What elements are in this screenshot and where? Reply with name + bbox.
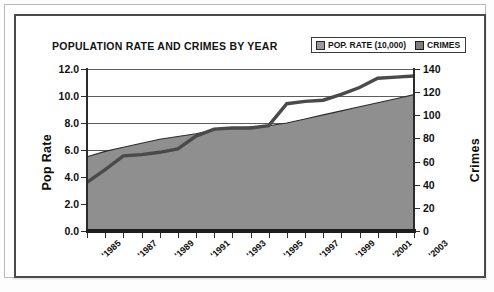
x-axis-tick <box>214 233 215 238</box>
y-axis-left-tick-label: 8.0 <box>47 117 79 129</box>
y-axis-right-tick <box>415 162 420 163</box>
y-axis-left-tick <box>81 177 86 178</box>
y-axis-left-tick-label: 10.0 <box>47 90 79 102</box>
y-axis-right-title: Crimes <box>468 138 482 182</box>
x-axis-tick-label: '1997 <box>318 238 341 260</box>
y-axis-left-tick-label: 0.0 <box>47 225 79 237</box>
x-axis-tick-label: '2003 <box>427 238 450 260</box>
area-series-pop-rate <box>87 95 414 231</box>
series-marker-icon <box>316 41 325 50</box>
x-axis-tick <box>287 233 288 238</box>
chart-legend: POP. RATE (10,000) CRIMES <box>311 37 466 53</box>
x-axis-tick <box>414 233 415 238</box>
y-axis-right-tick-label: 60 <box>423 156 435 168</box>
x-axis-tick <box>269 233 270 238</box>
y-axis-right-tick-label: 100 <box>423 109 441 121</box>
y-axis-right-tick <box>415 69 420 70</box>
y-axis-left-tick <box>81 123 86 124</box>
y-axis-right-tick-label: 40 <box>423 179 435 191</box>
x-axis-tick <box>196 233 197 238</box>
series-layer <box>87 69 414 231</box>
y-axis-right-tick-label: 140 <box>423 63 441 75</box>
y-axis-left-tick <box>81 69 86 70</box>
x-axis-tick-label: '1991 <box>209 238 232 260</box>
x-axis-tick <box>305 233 306 238</box>
x-axis-tick-label: '1993 <box>245 238 268 260</box>
y-axis-right-tick <box>415 92 420 93</box>
legend-label-pop-rate: POP. RATE (10,000) <box>328 40 406 50</box>
y-axis-left-line <box>86 68 88 232</box>
y-axis-right-tick-label: 0 <box>423 225 429 237</box>
x-axis-tick <box>178 233 179 238</box>
x-axis-tick <box>142 233 143 238</box>
x-axis-tick <box>341 233 342 238</box>
y-axis-right-tick <box>415 185 420 186</box>
y-axis-right-tick-label: 120 <box>423 86 441 98</box>
y-axis-right-tick <box>415 231 420 232</box>
x-axis-tick <box>160 233 161 238</box>
y-axis-left-tick <box>81 231 86 232</box>
y-axis-right-tick-label: 80 <box>423 132 435 144</box>
y-axis-left-tick-label: 2.0 <box>47 198 79 210</box>
x-axis-tick <box>232 233 233 238</box>
x-axis-tick-label: '1999 <box>354 238 377 260</box>
y-axis-right-tick-label: 20 <box>423 202 435 214</box>
chart-title: POPULATION RATE AND CRIMES BY YEAR <box>52 40 278 52</box>
x-axis-tick-label: '2001 <box>390 238 413 260</box>
chart-outer-frame: POPULATION RATE AND CRIMES BY YEAR POP. … <box>4 4 486 278</box>
y-axis-right-tick <box>415 115 420 116</box>
legend-item-pop-rate[interactable]: POP. RATE (10,000) <box>316 40 406 50</box>
legend-label-crimes: CRIMES <box>427 40 460 50</box>
chart-screenshot: POPULATION RATE AND CRIMES BY YEAR POP. … <box>0 0 494 292</box>
x-axis-tick <box>378 233 379 238</box>
x-axis-tick-label: '1985 <box>100 238 123 260</box>
y-axis-left-tick <box>81 204 86 205</box>
x-axis-tick-label: '1995 <box>281 238 304 260</box>
x-axis-tick <box>123 233 124 238</box>
y-axis-right-tick <box>415 208 420 209</box>
y-axis-left-tick-label: 6.0 <box>47 144 79 156</box>
legend-item-crimes[interactable]: CRIMES <box>415 40 460 50</box>
x-axis-tick <box>87 233 88 238</box>
x-axis-tick <box>360 233 361 238</box>
y-axis-left-tick-label: 12.0 <box>47 63 79 75</box>
x-axis-tick <box>251 233 252 238</box>
x-axis-tick <box>105 233 106 238</box>
y-axis-left-tick <box>81 150 86 151</box>
y-axis-left-tick <box>81 96 86 97</box>
x-axis-tick-label: '1989 <box>172 238 195 260</box>
series-marker-icon <box>415 41 424 50</box>
y-axis-right-tick <box>415 138 420 139</box>
x-axis-tick <box>323 233 324 238</box>
x-axis-tick-label: '1987 <box>136 238 159 260</box>
chart-inner-frame: POPULATION RATE AND CRIMES BY YEAR POP. … <box>14 14 486 278</box>
x-axis-tick <box>396 233 397 238</box>
y-axis-left-tick-label: 4.0 <box>47 171 79 183</box>
